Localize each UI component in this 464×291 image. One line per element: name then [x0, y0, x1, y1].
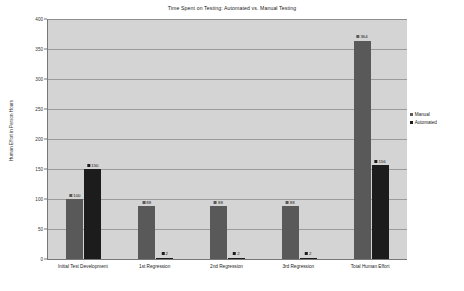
bar-automated[interactable]: [228, 258, 245, 259]
y-tick-label: 250: [35, 107, 43, 112]
bar-label-swatch: [286, 201, 289, 204]
chart-legend: ManualAutomated: [410, 112, 464, 128]
x-tick-label: Initial Test Development: [58, 264, 108, 269]
bars-layer: 100150882882882364156: [48, 19, 407, 259]
bar-label-swatch: [305, 252, 308, 255]
legend-item-manual[interactable]: Manual: [410, 112, 464, 117]
bar-automated[interactable]: [372, 165, 389, 259]
bar-label-text: 88: [146, 200, 151, 205]
y-axis-title: Human Effort in Person Hours: [9, 81, 14, 181]
bar-label-text: 2: [237, 251, 239, 256]
x-tick-label: Total Human Effort: [351, 264, 390, 269]
chart-container: Time Spent on Testing: Automated vs. Man…: [0, 0, 464, 291]
bar-manual[interactable]: [210, 206, 227, 259]
x-tick-label: 2nd Regression: [210, 264, 243, 269]
bar-manual[interactable]: [138, 206, 155, 259]
y-tick-label: 150: [35, 167, 43, 172]
bar-value-label: 156: [374, 159, 385, 164]
bar-automated[interactable]: [300, 258, 317, 259]
y-tick-label: 200: [35, 137, 43, 142]
legend-swatch: [410, 113, 413, 116]
legend-item-automated[interactable]: Automated: [410, 120, 464, 125]
bar-value-label: 88: [214, 200, 223, 205]
bar-label-text: 100: [73, 193, 80, 198]
bar-value-label: 364: [356, 34, 367, 39]
bar-group: 882: [120, 19, 192, 259]
bar-label-swatch: [214, 201, 217, 204]
bar-value-label: 100: [69, 193, 80, 198]
bar-manual[interactable]: [66, 199, 83, 259]
legend-label: Manual: [415, 112, 430, 117]
bar-automated[interactable]: [84, 169, 101, 259]
bar-label-swatch: [356, 35, 359, 38]
bar-label-text: 156: [378, 159, 385, 164]
legend-swatch: [410, 121, 413, 124]
bar-label-text: 88: [290, 200, 295, 205]
bar-label-swatch: [233, 252, 236, 255]
plot-area: 100150882882882364156: [47, 19, 407, 260]
bar-value-label: 88: [142, 200, 151, 205]
bar-value-label: 150: [87, 163, 98, 168]
legend-label: Automated: [415, 120, 437, 125]
bar-label-swatch: [87, 164, 90, 167]
y-tick-label: 400: [35, 17, 43, 22]
bar-manual[interactable]: [282, 206, 299, 259]
bar-value-label: 2: [233, 251, 239, 256]
y-axis: 050100150200250300350400: [0, 19, 47, 260]
y-tick-label: 350: [35, 47, 43, 52]
bar-label-text: 150: [91, 163, 98, 168]
bar-label-swatch: [142, 201, 145, 204]
y-tick-label: 100: [35, 197, 43, 202]
bar-value-label: 2: [305, 251, 311, 256]
bar-label-swatch: [69, 194, 72, 197]
x-axis: Initial Test Development1st Regression2n…: [47, 260, 406, 278]
x-tick-label: 1st Regression: [139, 264, 170, 269]
y-tick-label: 0: [40, 257, 43, 262]
bar-automated[interactable]: [156, 258, 173, 259]
y-tick-label: 50: [38, 227, 43, 232]
bar-label-text: 364: [360, 34, 367, 39]
bar-label-text: 2: [165, 251, 167, 256]
bar-group: 882: [192, 19, 264, 259]
x-tick-label: 3rd Regression: [282, 264, 314, 269]
bar-label-text: 2: [309, 251, 311, 256]
y-tick-label: 300: [35, 77, 43, 82]
bar-label-swatch: [161, 252, 164, 255]
bar-group: 364156: [335, 19, 407, 259]
bar-label-swatch: [374, 160, 377, 163]
bar-value-label: 2: [161, 251, 167, 256]
bar-manual[interactable]: [354, 41, 371, 259]
bar-group: 100150: [48, 19, 120, 259]
bar-value-label: 88: [286, 200, 295, 205]
bar-label-text: 88: [218, 200, 223, 205]
bar-group: 882: [263, 19, 335, 259]
chart-title: Time Spent on Testing: Automated vs. Man…: [0, 5, 464, 11]
